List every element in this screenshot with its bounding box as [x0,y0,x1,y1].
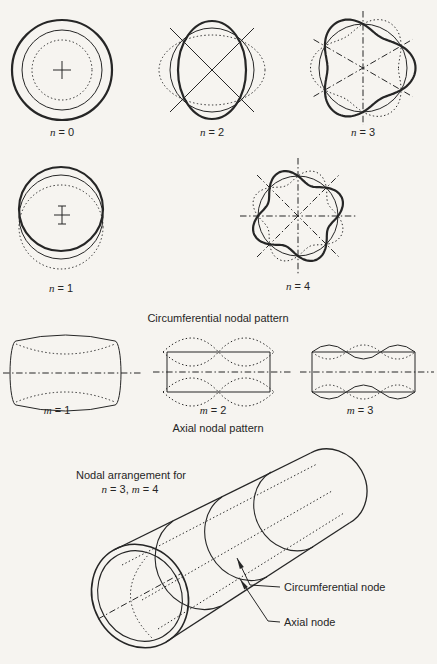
translation-axis-icon [54,206,70,224]
undeformed-circle [19,175,103,259]
mode-value: = 0 [55,126,74,138]
shell-mode-figure: n = 0 n = 2 n = 3 n = 1 [0,0,437,664]
axial-pattern-m2: m = 2 [153,338,292,416]
mode-value: = 2 [208,404,227,416]
axial-caption: Axial nodal pattern [172,422,263,434]
mode-label-m3: m = 3 [347,404,374,416]
mode-label-n3: n = 3 [351,126,375,138]
mode-value: = 3 [355,404,374,416]
circumferential-pattern-n0: n = 0 [12,20,112,138]
axial-pattern-m1: m = 1 [3,335,143,416]
arrangement-title: Nodal arrangement for [76,469,186,481]
circumferential-caption: Circumferential nodal pattern [147,312,288,324]
mode-value: = 3, [107,483,132,495]
cylinder-far-end-cap [311,449,367,523]
front-rim-inner [82,535,199,656]
mode-value: = 4 [140,483,159,495]
mode-label-n4: n = 4 [286,280,310,292]
mode-shape-dotted [16,392,115,402]
circumferential-node-ring [205,497,267,581]
front-rim-outer [73,527,207,664]
axial-pattern-m3: m = 3 [300,345,434,416]
circumferential-pattern-n4: n = 4 [240,158,356,292]
mode-value: = 1 [52,404,71,416]
mode-shape-circle [19,167,103,251]
mode-shape-dotted-circle [19,185,103,269]
circumferential-pattern-n1: n = 1 [19,167,103,294]
arrowhead-icon [237,558,244,569]
mode-variable: m [44,404,52,416]
mode-shape-dotted [16,344,115,354]
mode-value: = 3 [356,126,375,138]
circumferential-node-label: Circumferential node [284,581,386,593]
mode-value: = 1 [54,282,73,294]
circumferential-node-callout: Circumferential node [237,558,386,593]
figure-page: n = 0 n = 2 n = 3 n = 1 [0,0,437,664]
mode-variable: m [132,483,140,495]
mode-label-n1: n = 1 [49,282,73,294]
nodal-arrangement-diagram: Nodal arrangement for n = 3, m = 4 Circu… [73,449,385,664]
mode-shape-dotted-lobes [311,20,402,117]
shell-top-edge [16,335,115,341]
circumferential-node-ring [254,472,313,551]
arrangement-subtitle: n = 3, m = 4 [102,483,159,495]
mode-label-m2: m = 2 [200,404,227,416]
mode-shape-lobes [325,20,416,117]
axial-node-line [158,513,344,629]
cylinder-top-silhouette [114,453,311,550]
mode-variable: m [347,404,355,416]
mode-label-n2: n = 2 [200,126,224,138]
mode-variable: m [200,404,208,416]
mode-value: = 2 [205,126,224,138]
interior-axis-line [98,573,182,619]
mode-label-n0: n = 0 [50,126,74,138]
mode-label-m1: m = 1 [44,404,71,416]
mode-value: = 4 [291,280,310,292]
circumferential-pattern-n3: n = 3 [311,11,416,138]
circumferential-pattern-n2: n = 2 [159,21,265,138]
axial-node-label: Axial node [284,616,335,628]
